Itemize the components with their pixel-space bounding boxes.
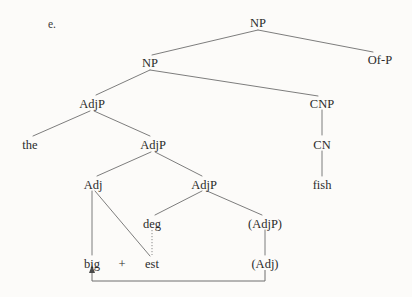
movement-arrow-line bbox=[92, 270, 265, 281]
branch-np-inner-to-cnp bbox=[150, 70, 318, 96]
node-adjp-mid: AdjP bbox=[140, 138, 166, 152]
branch-adjp-mid-to-adjp-inner bbox=[155, 152, 202, 176]
node-plus-sign: + bbox=[118, 257, 125, 271]
node-np-inner: NP bbox=[142, 56, 158, 70]
node-fish: fish bbox=[313, 178, 333, 192]
syntax-tree-canvas: e. NP NP bbox=[0, 0, 412, 297]
branch-adj-to-est bbox=[95, 191, 150, 256]
node-deg: deg bbox=[143, 217, 162, 231]
branch-adjp-inner-to-deg bbox=[155, 191, 202, 215]
node-adjp-outer: AdjP bbox=[79, 97, 105, 111]
node-est: est bbox=[145, 257, 159, 271]
node-np-root: NP bbox=[250, 16, 266, 30]
branch-np-root-to-np-inner bbox=[152, 30, 258, 55]
movement-arrow bbox=[89, 265, 265, 281]
branch-np-inner-to-adjp-outer bbox=[96, 70, 150, 95]
node-adj: Adj bbox=[84, 178, 103, 192]
branch-adjp-outer-to-adjp-mid bbox=[94, 111, 150, 136]
branch-adjp-outer-to-the bbox=[33, 111, 90, 136]
figure-item-label: e. bbox=[48, 18, 56, 30]
node-cn: CN bbox=[313, 138, 330, 152]
node-cnp: CNP bbox=[310, 97, 334, 111]
branch-np-root-to-of-p bbox=[258, 30, 373, 52]
node-big: big bbox=[84, 257, 101, 271]
node-the: the bbox=[22, 138, 38, 152]
node-adj-trace: (Adj) bbox=[251, 257, 278, 271]
branch-adjp-mid-to-adj bbox=[97, 152, 151, 176]
syntax-tree-figure: e. NP NP bbox=[0, 0, 412, 297]
node-adjp-trace: (AdjP) bbox=[248, 217, 282, 231]
branch-adjp-inner-to-adjp-trace bbox=[207, 191, 262, 215]
tree-node-labels: NP NP Of-P AdjP CNP the AdjP CN Adj AdjP… bbox=[22, 16, 392, 271]
node-adjp-inner: AdjP bbox=[191, 178, 217, 192]
node-of-p: Of-P bbox=[368, 53, 392, 67]
